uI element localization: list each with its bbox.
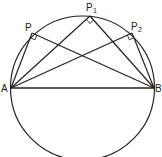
label-a: A: [1, 83, 8, 94]
label-p2-subscript: 2: [138, 26, 142, 33]
right-angle-mark-p1: [86, 19, 93, 23]
circle: [11, 16, 155, 157]
label-b: B: [155, 83, 162, 94]
label-p: P: [25, 22, 32, 33]
segment-ap1: [11, 16, 90, 88]
label-p1-subscript: 1: [93, 7, 97, 14]
label-p2: P: [131, 21, 138, 32]
thales-circle-diagram: A B P P 1 P 2: [0, 0, 162, 157]
label-p1: P: [86, 2, 93, 13]
